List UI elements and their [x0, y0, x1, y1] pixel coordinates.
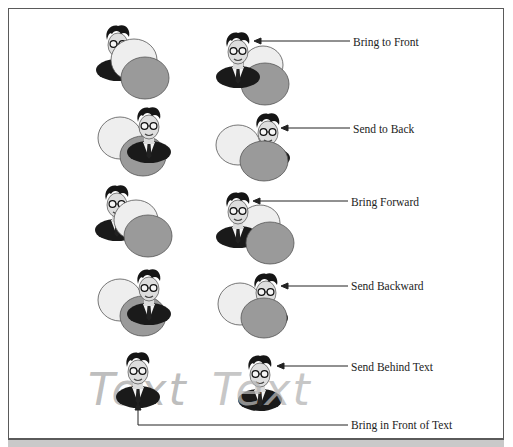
- row-bring-forward-before: [95, 185, 172, 257]
- layering-diagram: Text Text: [0, 0, 513, 447]
- label-send-behind-text: Send Behind Text: [351, 362, 433, 374]
- row-text-wrapping: Text Text: [88, 352, 312, 415]
- label-send-to-back: Send to Back: [353, 124, 414, 136]
- label-bring-forward: Bring Forward: [351, 197, 419, 209]
- row-bring-to-front-after: [216, 32, 289, 105]
- dark-oval-icon: [121, 57, 169, 99]
- label-send-backward: Send Backward: [351, 281, 424, 293]
- row-send-backward-before: [98, 269, 171, 336]
- label-bring-in-front-of-text: Bring in Front of Text: [351, 420, 452, 432]
- watermark-text-right: Text: [212, 364, 312, 415]
- row-send-to-back-after: [216, 113, 290, 181]
- row-bring-forward-after: [216, 192, 294, 264]
- row-send-to-back-before: [98, 107, 171, 176]
- row-bring-to-front-before: [96, 25, 169, 99]
- label-bring-to-front: Bring to Front: [353, 37, 419, 49]
- row-send-backward-after: [218, 273, 288, 338]
